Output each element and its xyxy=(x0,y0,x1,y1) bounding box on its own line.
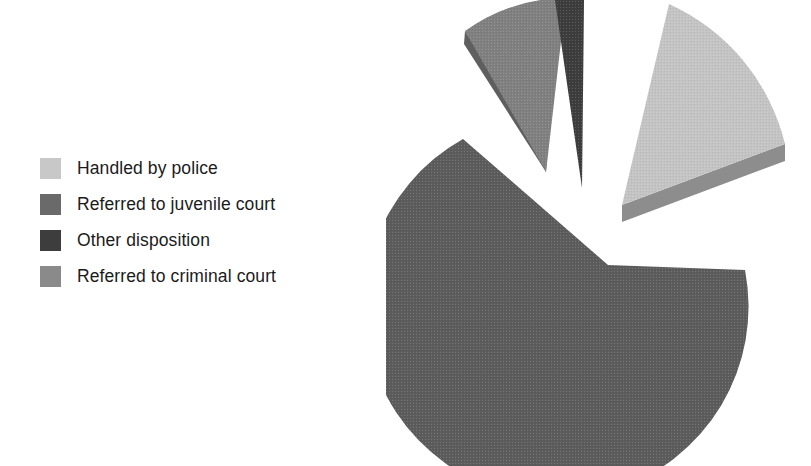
legend-swatch-handled-by-police xyxy=(40,158,61,179)
pie-svg-canvas xyxy=(386,0,811,466)
legend-item-handled-by-police[interactable]: Handled by police xyxy=(40,150,370,186)
pie-slice-referred-to-criminal-court[interactable] xyxy=(464,0,566,172)
pie-slice-texture-other xyxy=(555,0,584,188)
legend-label-other-disposition: Other disposition xyxy=(77,230,210,250)
pie-chart-figure: Handled by police Referred to juvenile c… xyxy=(0,0,811,466)
legend-label-referred-to-juvenile-court: Referred to juvenile court xyxy=(77,194,275,214)
legend-swatch-other-disposition xyxy=(40,230,61,251)
pie-slice-handled-by-police[interactable] xyxy=(622,4,785,222)
pie-chart-graphic xyxy=(386,0,811,466)
legend-item-other-disposition[interactable]: Other disposition xyxy=(40,222,370,258)
pie-slice-other-disposition[interactable] xyxy=(555,0,584,188)
legend-item-referred-to-juvenile-court[interactable]: Referred to juvenile court xyxy=(40,186,370,222)
legend-label-referred-to-criminal-court: Referred to criminal court xyxy=(77,266,276,286)
legend-label-handled-by-police: Handled by police xyxy=(77,158,218,178)
legend-swatch-referred-to-criminal-court xyxy=(40,266,61,287)
pie-slice-texture-criminal xyxy=(465,0,566,172)
legend-swatch-referred-to-juvenile-court xyxy=(40,194,61,215)
legend-item-referred-to-criminal-court[interactable]: Referred to criminal court xyxy=(40,258,370,294)
chart-legend: Handled by police Referred to juvenile c… xyxy=(40,150,370,294)
